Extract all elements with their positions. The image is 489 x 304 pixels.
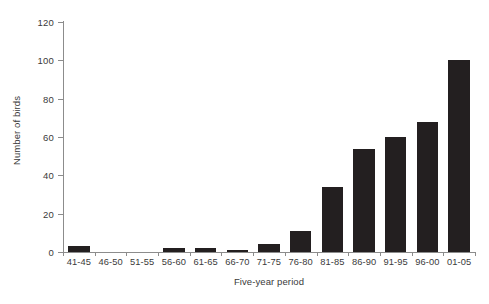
- y-axis-tick-label: 80: [20, 93, 54, 104]
- y-axis-title: Number of birds: [8, 0, 26, 260]
- bar-slot: [380, 22, 412, 252]
- bar-slot: [285, 22, 317, 252]
- x-axis-tick: [63, 252, 64, 256]
- x-axis-tick-label: 86-90: [348, 257, 380, 267]
- x-axis-tick-label: 51-55: [126, 257, 158, 267]
- x-axis-tick: [190, 252, 191, 256]
- y-axis-tick-label: 20: [20, 208, 54, 219]
- x-axis-tick-label: 01-05: [443, 257, 475, 267]
- bar-slot: [63, 22, 95, 252]
- bar-slot: [412, 22, 444, 252]
- y-axis-tick-label: 60: [20, 132, 54, 143]
- x-axis-tick: [317, 252, 318, 256]
- x-axis-title: Five-year period: [63, 276, 475, 287]
- x-axis-tick: [95, 252, 96, 256]
- bar-slot: [221, 22, 253, 252]
- bar-slot: [158, 22, 190, 252]
- x-axis-ticks: [63, 252, 475, 256]
- x-axis-tick: [412, 252, 413, 256]
- y-axis-tick-label: 0: [20, 247, 54, 258]
- bar-slot: [126, 22, 158, 252]
- x-axis-tick-label: 66-70: [221, 257, 253, 267]
- bar-slot: [317, 22, 349, 252]
- y-axis-title-text: Number of birds: [12, 95, 23, 164]
- bar-series: [63, 22, 475, 252]
- bar: [385, 137, 407, 252]
- x-axis-tick-label: 71-75: [253, 257, 285, 267]
- bar-slot: [95, 22, 127, 252]
- bar-slot: [348, 22, 380, 252]
- x-axis-tick-label: 96-00: [412, 257, 444, 267]
- y-axis-tick-label: 100: [20, 55, 54, 66]
- bar-slot: [443, 22, 475, 252]
- x-axis-tick: [158, 252, 159, 256]
- x-axis-tick: [221, 252, 222, 256]
- x-axis-tick-label: 91-95: [380, 257, 412, 267]
- bar-chart-figure: Number of birds 020406080100120 41-4546-…: [0, 0, 489, 304]
- x-axis-tick: [348, 252, 349, 256]
- x-axis-tick-labels: 41-4546-5051-5556-6061-6566-7071-7576-80…: [63, 257, 475, 267]
- x-axis-tick-label: 56-60: [158, 257, 190, 267]
- y-axis-tick-label: 40: [20, 170, 54, 181]
- bar: [417, 122, 439, 252]
- x-axis-tick: [253, 252, 254, 256]
- bar-slot: [190, 22, 222, 252]
- bar: [290, 231, 312, 252]
- x-axis-tick: [475, 252, 476, 256]
- y-axis-tick-label: 120: [20, 17, 54, 28]
- bar: [353, 149, 375, 253]
- x-axis-tick-label: 81-85: [317, 257, 349, 267]
- bar: [258, 244, 280, 252]
- x-axis-tick: [443, 252, 444, 256]
- x-axis-tick-label: 46-50: [95, 257, 127, 267]
- x-axis-tick-label: 61-65: [190, 257, 222, 267]
- bar: [322, 187, 344, 252]
- x-axis-tick-label: 76-80: [285, 257, 317, 267]
- x-axis-tick: [126, 252, 127, 256]
- bar: [448, 60, 470, 252]
- x-axis-tick-label: 41-45: [63, 257, 95, 267]
- x-axis-tick: [380, 252, 381, 256]
- x-axis-tick: [285, 252, 286, 256]
- bar-slot: [253, 22, 285, 252]
